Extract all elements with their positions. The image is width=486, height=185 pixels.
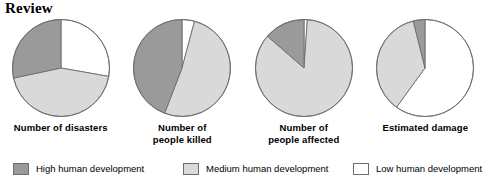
pie-graphic <box>132 18 232 118</box>
chart-caption-row: Number of disasters Number of people kil… <box>0 122 486 152</box>
pie-svg <box>375 18 475 118</box>
caption-line-1: Number of disasters <box>4 122 118 134</box>
pie-chart-row <box>0 18 486 120</box>
pie-slice <box>12 20 60 79</box>
caption-line-2: people affected <box>247 134 361 146</box>
caption-line-2: people killed <box>126 134 240 146</box>
pie-chart-estimated-damage <box>365 18 486 120</box>
legend: High human development Medium human deve… <box>0 162 486 178</box>
caption-line-1: Number of <box>247 122 361 134</box>
chart-caption-number-of-people-affected: Number of people affected <box>243 122 365 152</box>
legend-swatch-high <box>13 163 29 175</box>
pie-graphic <box>254 18 354 118</box>
legend-item-low-human-development: Low human development <box>353 162 482 176</box>
pie-slice <box>61 20 109 77</box>
chart-caption-number-of-people-killed: Number of people killed <box>122 122 244 152</box>
pie-graphic <box>375 18 475 118</box>
legend-label-low: Low human development <box>376 163 482 175</box>
pie-svg <box>11 18 111 118</box>
chart-caption-number-of-disasters: Number of disasters <box>0 122 122 152</box>
caption-line-1: Number of <box>126 122 240 134</box>
pie-svg <box>254 18 354 118</box>
legend-label-medium: Medium human development <box>206 163 329 175</box>
pie-chart-number-of-people-killed <box>122 18 244 120</box>
legend-label-high: High human development <box>36 163 144 175</box>
pie-svg <box>132 18 232 118</box>
legend-swatch-medium <box>183 163 199 175</box>
pie-chart-number-of-people-affected <box>243 18 365 120</box>
legend-item-high-human-development: High human development <box>13 162 144 176</box>
page-title: Review <box>5 0 53 17</box>
legend-item-medium-human-development: Medium human development <box>183 162 329 176</box>
legend-swatch-low <box>353 163 369 175</box>
caption-line-1: Estimated damage <box>369 122 483 134</box>
pie-chart-number-of-disasters <box>0 18 122 120</box>
pie-graphic <box>11 18 111 118</box>
chart-caption-estimated-damage: Estimated damage <box>365 122 486 152</box>
